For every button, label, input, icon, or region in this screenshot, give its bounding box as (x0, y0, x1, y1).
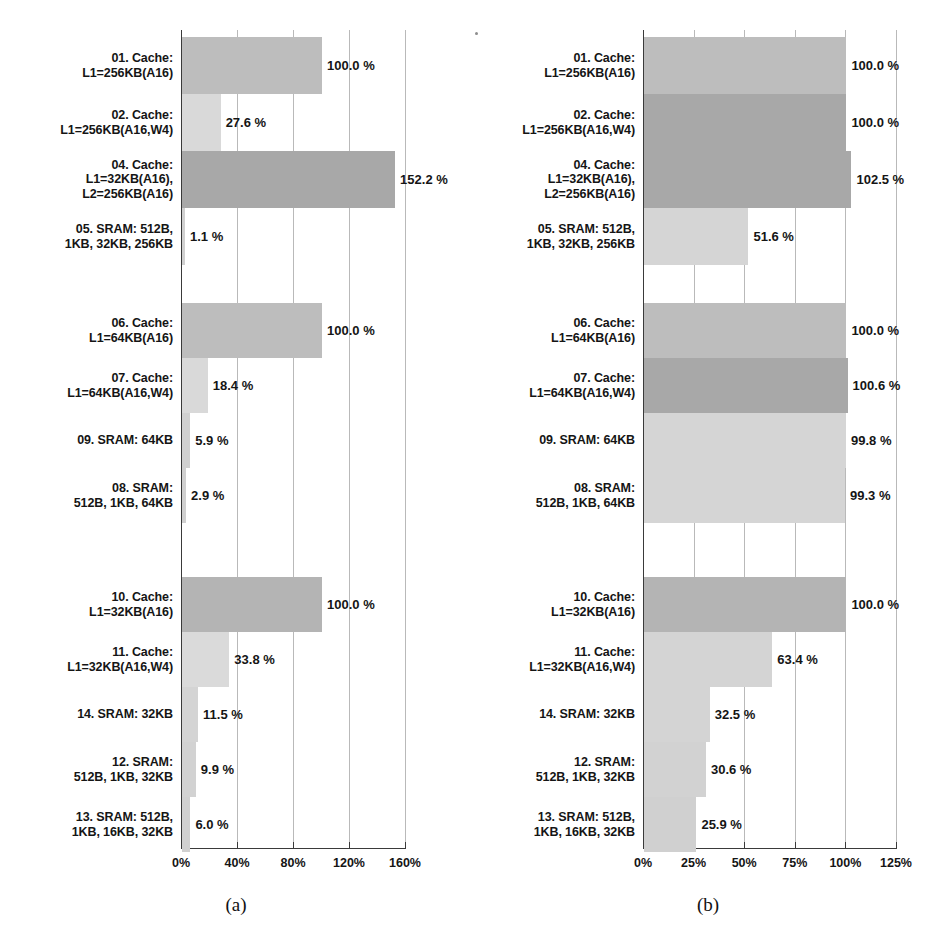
panel-caption: (a) (0, 894, 472, 916)
category-label: 04. Cache: L1=32KB(A16), L2=256KB(A16) (13, 158, 173, 202)
bar (182, 742, 196, 797)
bar (644, 468, 845, 523)
category-label: 01. Cache: L1=256KB(A16) (13, 51, 173, 80)
chart-panel-a: 0%40%80%120%160%100.0 %01. Cache: L1=256… (0, 0, 472, 950)
bar-value-label: 152.2 % (400, 172, 448, 187)
bar (644, 303, 846, 358)
bar-value-label: 51.6 % (753, 229, 793, 244)
bar (644, 413, 846, 468)
bar (182, 37, 322, 94)
x-axis-tick-label: 50% (732, 856, 757, 870)
bar-value-label: 99.8 % (851, 433, 891, 448)
x-axis-tick (349, 842, 350, 848)
bar (644, 94, 846, 151)
category-label: 06. Cache: L1=64KB(A16) (13, 316, 173, 345)
bar-value-label: 100.0 % (851, 323, 899, 338)
x-axis-tick (896, 842, 897, 848)
bar-value-label: 102.5 % (856, 172, 904, 187)
x-axis-tick-label: 0% (172, 856, 190, 870)
bar (182, 413, 190, 468)
bar-value-label: 30.6 % (711, 762, 751, 777)
category-label: 02. Cache: L1=256KB(A16,W4) (475, 108, 635, 137)
bar (182, 208, 185, 265)
bar-value-label: 6.0 % (195, 817, 228, 832)
bar-value-label: 2.9 % (191, 488, 224, 503)
x-axis-tick (405, 842, 406, 848)
bar-value-label: 9.9 % (201, 762, 234, 777)
bar-value-label: 1.1 % (190, 229, 223, 244)
category-label: 08. SRAM: 512B, 1KB, 64KB (13, 481, 173, 510)
bar-value-label: 100.0 % (851, 58, 899, 73)
category-label: 14. SRAM: 32KB (475, 707, 635, 722)
category-label: 09. SRAM: 64KB (475, 433, 635, 448)
x-axis-tick (744, 842, 745, 848)
chart-panel-b: 0%25%50%75%100%125%100.0 %01. Cache: L1=… (472, 0, 944, 950)
bar (644, 577, 846, 632)
category-label: 07. Cache: L1=64KB(A16,W4) (475, 371, 635, 400)
category-label: 08. SRAM: 512B, 1KB, 64KB (475, 481, 635, 510)
gridline (896, 30, 897, 848)
x-axis-tick-label: 100% (829, 856, 861, 870)
bar (182, 632, 229, 687)
bar (644, 151, 851, 208)
category-label: 13. SRAM: 512B, 1KB, 16KB, 32KB (475, 810, 635, 839)
bar (182, 358, 208, 413)
bar-value-label: 100.0 % (851, 597, 899, 612)
bar (182, 151, 395, 208)
x-axis-tick-label: 120% (333, 856, 365, 870)
category-label: 09. SRAM: 64KB (13, 433, 173, 448)
x-axis-tick-label: 25% (681, 856, 706, 870)
category-label: 13. SRAM: 512B, 1KB, 16KB, 32KB (13, 810, 173, 839)
bar (644, 742, 706, 797)
bar (182, 687, 198, 742)
gridline (405, 30, 406, 848)
bar (644, 797, 696, 852)
category-label: 06. Cache: L1=64KB(A16) (475, 316, 635, 345)
category-label: 11. Cache: L1=32KB(A16,W4) (475, 645, 635, 674)
x-axis-tick-label: 160% (389, 856, 421, 870)
category-label: 07. Cache: L1=64KB(A16,W4) (13, 371, 173, 400)
bar-value-label: 100.0 % (327, 58, 375, 73)
bar-value-label: 32.5 % (715, 707, 755, 722)
scan-speck (475, 32, 478, 35)
category-label: 01. Cache: L1=256KB(A16) (475, 51, 635, 80)
bar-value-label: 63.4 % (777, 652, 817, 667)
bar-value-label: 100.0 % (327, 323, 375, 338)
category-label: 05. SRAM: 512B, 1KB, 32KB, 256KB (13, 222, 173, 251)
bar-value-label: 25.9 % (701, 817, 741, 832)
bar-value-label: 11.5 % (203, 707, 243, 722)
x-axis-tick-label: 0% (634, 856, 652, 870)
bar (644, 208, 748, 265)
bar-value-label: 100.6 % (853, 378, 901, 393)
bar-value-label: 27.6 % (226, 115, 266, 130)
bar-value-label: 100.0 % (851, 115, 899, 130)
bar (182, 577, 322, 632)
bar (644, 37, 846, 94)
category-label: 11. Cache: L1=32KB(A16,W4) (13, 645, 173, 674)
category-label: 04. Cache: L1=32KB(A16), L2=256KB(A16) (475, 158, 635, 202)
bar-value-label: 99.3 % (850, 488, 890, 503)
bar (644, 632, 772, 687)
bar (644, 687, 710, 742)
bar (182, 303, 322, 358)
bar-value-label: 18.4 % (213, 378, 253, 393)
bar-value-label: 33.8 % (234, 652, 274, 667)
panel-caption: (b) (472, 894, 944, 916)
x-axis-line (181, 848, 406, 849)
bar (644, 358, 848, 413)
x-axis-tick-label: 125% (880, 856, 912, 870)
category-label: 10. Cache: L1=32KB(A16) (13, 590, 173, 619)
category-label: 05. SRAM: 512B, 1KB, 32KB, 256KB (475, 222, 635, 251)
x-axis-tick-label: 80% (280, 856, 305, 870)
category-label: 10. Cache: L1=32KB(A16) (475, 590, 635, 619)
category-label: 02. Cache: L1=256KB(A16,W4) (13, 108, 173, 137)
category-label: 12. SRAM: 512B, 1KB, 32KB (475, 755, 635, 784)
category-label: 12. SRAM: 512B, 1KB, 32KB (13, 755, 173, 784)
x-axis-tick (237, 842, 238, 848)
x-axis-tick-label: 40% (224, 856, 249, 870)
category-label: 14. SRAM: 32KB (13, 707, 173, 722)
bar (182, 468, 186, 523)
figure-container: 0%40%80%120%160%100.0 %01. Cache: L1=256… (0, 0, 944, 950)
bar-value-label: 5.9 % (195, 433, 228, 448)
x-axis-tick (795, 842, 796, 848)
